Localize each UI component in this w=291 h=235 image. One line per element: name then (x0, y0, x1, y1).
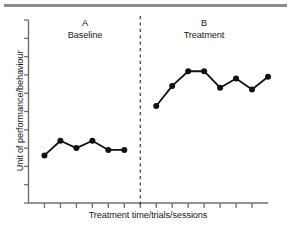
axis-lines (29, 20, 269, 203)
top-horizontal-rule (4, 4, 287, 7)
phase-b-letter: B (148, 18, 260, 30)
series-markers (41, 68, 271, 158)
y-axis-title: Unit of performance/behaviour (15, 21, 25, 201)
phase-a-name: Baseline (38, 30, 132, 42)
phase-b-caption: B Treatment (148, 18, 260, 41)
phase-a-caption: A Baseline (38, 18, 132, 41)
x-axis-title: Treatment time/trials/sessions (28, 210, 268, 220)
phase-b-name: Treatment (148, 30, 260, 42)
figure-container: Unit of performance/behaviour Treatment … (0, 0, 291, 235)
series-lines (44, 71, 268, 155)
x-axis-ticks (44, 203, 252, 208)
phase-a-letter: A (38, 18, 132, 30)
